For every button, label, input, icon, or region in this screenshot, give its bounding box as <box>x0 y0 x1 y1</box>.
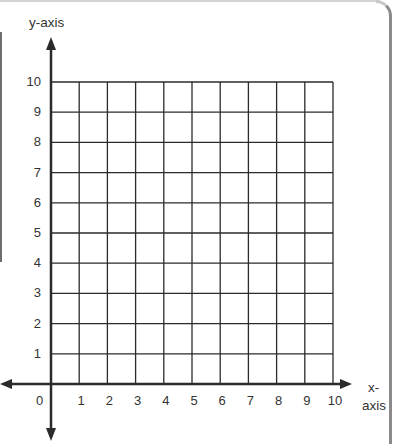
x-tick-label: 8 <box>275 393 282 408</box>
origin-label: 0 <box>36 393 43 408</box>
x-axis-label-line1: x- <box>368 380 379 395</box>
y-tick-label: 1 <box>34 346 41 361</box>
y-axis-down-arrow-icon <box>46 428 56 441</box>
x-tick-label: 6 <box>219 393 226 408</box>
coordinate-grid: y-axis x- axis 0 12345678910 12345678910 <box>0 0 394 444</box>
x-tick-label: 4 <box>162 393 169 408</box>
x-axis-left-arrow-icon <box>0 379 12 389</box>
y-axis-label: y-axis <box>29 15 65 30</box>
y-tick-label: 7 <box>34 165 41 180</box>
x-tick-label: 10 <box>328 393 342 408</box>
y-tick-label: 2 <box>34 316 41 331</box>
x-tick-label: 1 <box>78 393 85 408</box>
x-tick-label: 2 <box>106 393 113 408</box>
y-tick-label: 10 <box>27 74 41 89</box>
x-axis-right-arrow-icon <box>340 379 352 389</box>
x-tick-label: 9 <box>303 393 310 408</box>
x-tick-label: 3 <box>134 393 141 408</box>
x-tick-labels: 12345678910 <box>78 393 343 408</box>
y-tick-label: 9 <box>34 104 41 119</box>
gridlines <box>51 82 333 384</box>
y-tick-label: 3 <box>34 285 41 300</box>
y-tick-label: 8 <box>34 134 41 149</box>
y-tick-label: 6 <box>34 195 41 210</box>
x-axis-label-line2: axis <box>362 398 386 413</box>
x-tick-label: 7 <box>247 393 254 408</box>
axes <box>0 37 352 441</box>
y-tick-label: 4 <box>34 255 41 270</box>
x-tick-label: 5 <box>190 393 197 408</box>
y-tick-label: 5 <box>34 225 41 240</box>
y-tick-labels: 12345678910 <box>27 74 41 361</box>
y-axis-up-arrow-icon <box>46 37 56 50</box>
